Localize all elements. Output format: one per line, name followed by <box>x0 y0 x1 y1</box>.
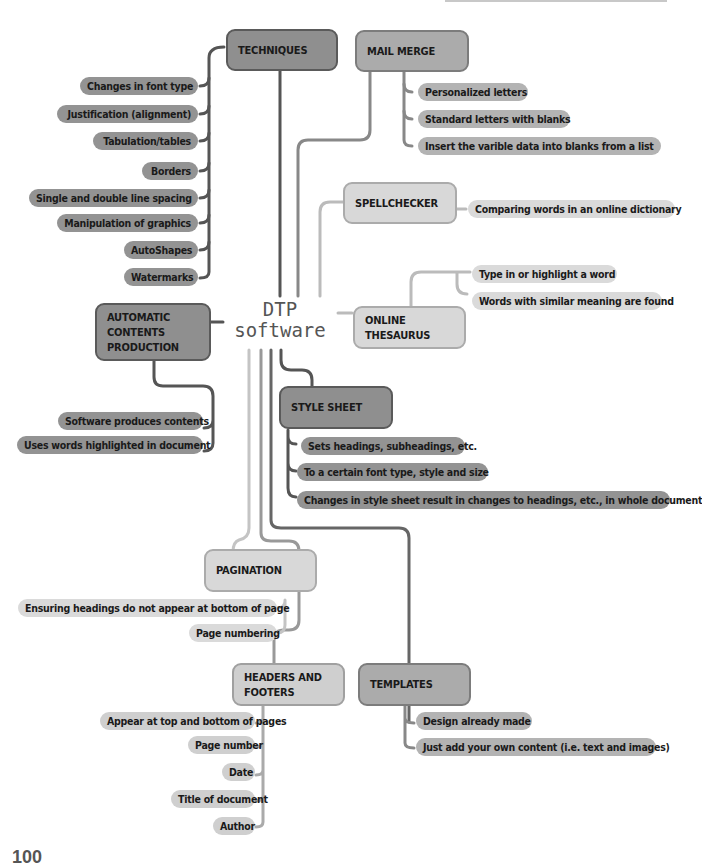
node-automatic-contents-production[interactable]: AUTOMATIC CONTENTS PRODUCTION <box>95 303 211 361</box>
node-templates-label: TEMPLATES <box>370 677 433 692</box>
leaf-pagination-0[interactable]: Ensuring headings do not appear at botto… <box>18 599 277 617</box>
leaf-templates-1[interactable]: Just add your own content (i.e. text and… <box>416 738 656 756</box>
leaf-mail-merge-1[interactable]: Standard letters with blanks <box>418 110 570 128</box>
leaf-style-sheet-1[interactable]: To a certain font type, style and size <box>297 463 488 481</box>
leaf-techniques-1[interactable]: Justification (alignment) <box>57 105 198 123</box>
node-style-sheet-label: STYLE SHEET <box>291 400 362 415</box>
central-topic-line2: software <box>224 320 336 341</box>
leaf-techniques-6[interactable]: AutoShapes <box>124 241 198 259</box>
node-headers-footers-label: HEADERS AND FOOTERS <box>244 670 322 700</box>
leaf-mail-merge-0[interactable]: Personalized letters <box>418 83 528 101</box>
leaf-headers-footers-3[interactable]: Title of document <box>171 790 255 808</box>
leaf-thesaurus-0[interactable]: Type in or highlight a word <box>472 265 617 283</box>
leaf-auto-contents-1[interactable]: Uses words highlighted in document <box>17 436 203 454</box>
node-spellchecker-label: SPELLCHECKER <box>355 196 438 211</box>
node-techniques[interactable]: TECHNIQUES <box>226 29 338 71</box>
leaf-headers-footers-0[interactable]: Appear at top and bottom of pages <box>100 712 255 730</box>
node-pagination-label: PAGINATION <box>216 563 282 578</box>
node-mail-merge-label: MAIL MERGE <box>367 44 435 59</box>
leaf-thesaurus-1[interactable]: Words with similar meaning are found <box>472 292 662 310</box>
leaf-techniques-5[interactable]: Manipulation of graphics <box>57 214 198 232</box>
leaf-techniques-3[interactable]: Borders <box>142 162 198 180</box>
leaf-headers-footers-2[interactable]: Date <box>222 763 255 781</box>
leaf-spellchecker-0[interactable]: Comparing words in an online dictionary <box>468 200 675 218</box>
central-topic: DTP software <box>224 299 336 341</box>
leaf-techniques-4[interactable]: Single and double line spacing <box>29 189 198 207</box>
node-pagination[interactable]: PAGINATION <box>204 549 317 592</box>
leaf-techniques-2[interactable]: Tabulation/tables <box>93 132 198 150</box>
leaf-techniques-0[interactable]: Changes in font type <box>80 77 198 95</box>
leaf-templates-0[interactable]: Design already made <box>416 712 532 730</box>
leaf-style-sheet-0[interactable]: Sets headings, subheadings, etc. <box>301 437 465 455</box>
leaf-pagination-1[interactable]: Page numbering <box>189 624 277 642</box>
central-topic-line1: DTP <box>224 299 336 320</box>
node-online-thesaurus[interactable]: ONLINE THESAURUS <box>353 306 466 349</box>
leaf-techniques-7[interactable]: Watermarks <box>124 268 198 286</box>
node-automatic-contents-label: AUTOMATIC CONTENTS PRODUCTION <box>107 310 179 355</box>
leaf-style-sheet-2[interactable]: Changes in style sheet result in changes… <box>297 491 670 509</box>
node-techniques-label: TECHNIQUES <box>238 43 307 58</box>
node-style-sheet[interactable]: STYLE SHEET <box>279 386 393 429</box>
node-spellchecker[interactable]: SPELLCHECKER <box>343 182 457 224</box>
leaf-headers-footers-4[interactable]: Author <box>213 817 255 835</box>
page-number: 100 <box>12 848 42 866</box>
leaf-headers-footers-1[interactable]: Page number <box>188 736 255 754</box>
leaf-mail-merge-2[interactable]: Insert the varible data into blanks from… <box>418 137 661 155</box>
node-templates[interactable]: TEMPLATES <box>358 663 471 706</box>
node-headers-and-footers[interactable]: HEADERS AND FOOTERS <box>232 663 345 706</box>
node-online-thesaurus-label: ONLINE THESAURUS <box>365 313 430 343</box>
node-mail-merge[interactable]: MAIL MERGE <box>355 30 469 72</box>
leaf-auto-contents-0[interactable]: Software produces contents <box>58 412 203 430</box>
